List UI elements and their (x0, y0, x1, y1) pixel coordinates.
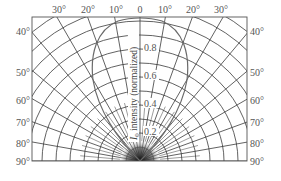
axis-title-text: intensity (normalized) (129, 47, 140, 134)
right-label: 40° (250, 26, 264, 37)
top-label: 20° (81, 4, 95, 15)
radial-label: 0.6 (144, 70, 157, 81)
left-label: 80° (16, 138, 30, 149)
left-label: 70° (16, 117, 30, 128)
svg-text:I0 intensity (normalized): I0 intensity (normalized) (129, 47, 141, 141)
radial-label: 0.8 (144, 42, 157, 53)
polar-intensity-diagram: 30° 20° 10° 0 10° 20° 30° 40° 50° 60° 70… (0, 0, 281, 181)
left-label: 40° (16, 26, 30, 37)
right-label: 80° (250, 138, 264, 149)
left-label: 60° (16, 95, 30, 106)
top-label: 10° (158, 4, 172, 15)
left-label: 90° (16, 156, 30, 167)
axis-title: I0 intensity (normalized) (128, 22, 141, 142)
left-angle-labels: 40° 50° 60° 70° 80° 90° (16, 26, 30, 167)
top-label: 20° (186, 4, 200, 15)
radial-label: 0.2 (144, 126, 157, 137)
top-label: 10° (109, 4, 123, 15)
top-label: 0 (138, 4, 143, 15)
radial-label: 0.4 (144, 98, 157, 109)
top-angle-labels: 30° 20° 10° 0 10° 20° 30° (52, 4, 228, 15)
right-label: 70° (250, 117, 264, 128)
top-label: 30° (52, 4, 66, 15)
left-label: 50° (16, 67, 30, 78)
top-label: 30° (214, 4, 228, 15)
right-label: 50° (250, 67, 264, 78)
right-angle-labels: 40° 50° 60° 70° 80° 90° (250, 26, 264, 167)
right-label: 90° (250, 156, 264, 167)
right-label: 60° (250, 95, 264, 106)
